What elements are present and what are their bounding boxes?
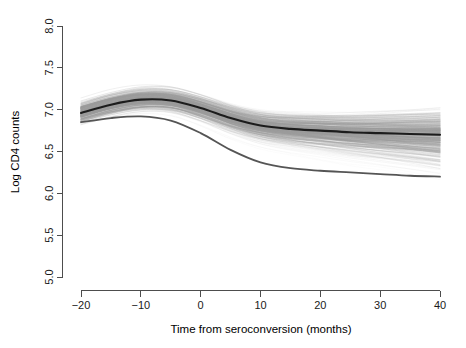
- x-axis-tick-label: 30: [374, 299, 386, 311]
- y-axis-tick-label: 7.0: [43, 102, 55, 117]
- y-axis-tick-label: 8.0: [43, 18, 55, 33]
- trajectory-curves: [81, 85, 440, 180]
- x-axis-tick-label: 20: [314, 299, 326, 311]
- y-axis-tick-label: 7.5: [43, 60, 55, 75]
- y-axis-tick-label: 6.5: [43, 144, 55, 159]
- x-axis-tick-label: 40: [434, 299, 446, 311]
- y-axis-tick-label: 5.0: [43, 269, 55, 284]
- x-axis-title: Time from seroconversion (months): [170, 323, 351, 335]
- chart-container: 5.05.56.06.57.07.58.0−20−10010203040 Tim…: [0, 0, 466, 348]
- x-axis-tick-label: −20: [72, 299, 91, 311]
- x-axis-tick-label: 10: [254, 299, 266, 311]
- y-axis-tick-label: 6.0: [43, 186, 55, 201]
- x-axis-tick-label: −10: [131, 299, 150, 311]
- y-axis-tick-label: 5.5: [43, 228, 55, 243]
- y-axis-title: Log CD4 counts: [9, 111, 21, 194]
- cd4-trajectory-chart: 5.05.56.06.57.07.58.0−20−10010203040 Tim…: [0, 0, 466, 348]
- x-axis-tick-label: 0: [198, 299, 204, 311]
- axes: 5.05.56.06.57.07.58.0−20−10010203040: [43, 18, 446, 311]
